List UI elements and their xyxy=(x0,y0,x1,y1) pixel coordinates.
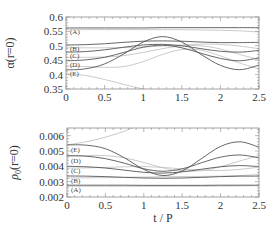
x-tick-label: 0.5 xyxy=(99,199,113,211)
x-tick-label: 1.5 xyxy=(175,199,189,211)
x-tick-label: 0 xyxy=(64,199,70,211)
curve-dref-ref xyxy=(67,155,259,171)
x-tick-label: 1 xyxy=(140,91,146,103)
curve-label: (C) xyxy=(70,52,80,60)
y-tick-label: 0.5 xyxy=(49,40,63,52)
x-tick-label: 0 xyxy=(63,91,69,103)
bottom-panel: 00.511.522.50.0020.0030.0040.0050.006(A)… xyxy=(7,120,266,225)
y-tick-label: 0.4 xyxy=(49,69,63,81)
y-tick-label: 0.006 xyxy=(39,130,64,142)
x-tick-label: 1.5 xyxy=(175,91,189,103)
figure: 00.511.522.50.350.40.450.50.550.6(A)(B)(… xyxy=(0,0,276,232)
curve-eref-ref xyxy=(67,120,259,145)
curve-c xyxy=(67,166,259,174)
y-axis-label: ρ0(r=0) xyxy=(7,145,23,181)
x-tick-label: 2.5 xyxy=(252,199,266,211)
curves xyxy=(66,28,259,94)
curve-label: (C) xyxy=(71,167,81,175)
top-panel: 00.511.522.50.350.40.450.50.550.6(A)(B)(… xyxy=(3,11,266,103)
curve-label: (A) xyxy=(71,186,81,194)
x-tick-label: 1 xyxy=(141,199,147,211)
y-tick-label: 0.6 xyxy=(49,11,63,23)
y-tick-label: 0.005 xyxy=(39,145,64,157)
curves xyxy=(67,120,259,186)
curve-label: (E) xyxy=(70,70,80,78)
x-tick-label: 2.5 xyxy=(252,91,266,103)
y-axis-label: α(r=0) xyxy=(3,37,17,68)
y-tick-label: 0.45 xyxy=(44,54,64,66)
curve-eref-ref xyxy=(66,74,259,94)
y-tick-label: 0.35 xyxy=(44,83,64,95)
y-tick-label: 0.002 xyxy=(39,191,64,203)
curve-d xyxy=(67,155,259,171)
y-tick-label: 0.55 xyxy=(44,25,64,37)
curve-label: (A) xyxy=(70,28,80,36)
curve-label: (B) xyxy=(71,177,81,185)
curve-label: (D) xyxy=(70,61,80,69)
curve-label: (D) xyxy=(71,157,81,165)
y-tick-label: 0.004 xyxy=(39,160,64,172)
x-tick-label: 0.5 xyxy=(98,91,112,103)
curve-e xyxy=(66,37,259,70)
x-tick-label: 2 xyxy=(218,199,224,211)
curve-aref-ref xyxy=(66,30,259,32)
x-tick-label: 2 xyxy=(218,91,224,103)
y-tick-label: 0.003 xyxy=(39,176,64,188)
x-axis-label: t / P xyxy=(153,211,173,225)
curve-label: (E) xyxy=(71,146,81,154)
